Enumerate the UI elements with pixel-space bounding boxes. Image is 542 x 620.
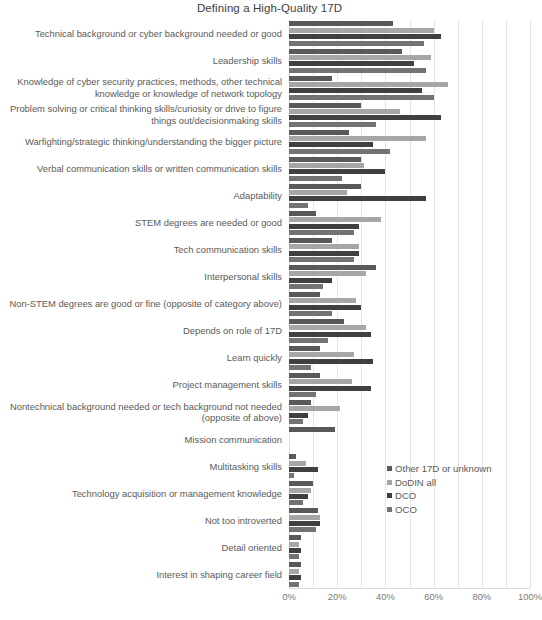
x-tick-label: 100% [518, 591, 542, 602]
y-axis-category-label: Tech communication skills [0, 236, 286, 263]
bar [289, 365, 311, 370]
y-axis-category-label: Technical background or cyber background… [0, 20, 286, 47]
bar [289, 28, 434, 33]
bar [289, 244, 359, 249]
bar [289, 305, 361, 310]
bar [289, 184, 361, 189]
bar [289, 554, 299, 559]
x-tick-label: 20% [328, 591, 347, 602]
bar [289, 251, 359, 256]
bar [289, 203, 308, 208]
legend-swatch-icon [387, 493, 392, 498]
bar-group [289, 101, 530, 128]
bar [289, 298, 356, 303]
bar [289, 548, 301, 553]
bar [289, 379, 352, 384]
y-axis-category-label: Learn quickly [0, 345, 286, 372]
bar [289, 21, 393, 26]
bar [289, 76, 332, 81]
bar [289, 82, 448, 87]
bar [289, 238, 332, 243]
chart-legend: Other 17D or unknownDoDIN allDCOOCO [387, 463, 492, 515]
legend-swatch-icon [387, 480, 392, 485]
bar [289, 332, 371, 337]
y-axis-category-label: Nontechnical background needed or tech b… [0, 399, 286, 426]
bar [289, 325, 366, 330]
bar [289, 419, 303, 424]
bar [289, 488, 311, 493]
y-axis-category-label: Verbal communication skills or written c… [0, 155, 286, 182]
bar [289, 68, 426, 73]
bar [289, 61, 414, 66]
y-axis-category-label: Leadership skills [0, 47, 286, 74]
bar [289, 196, 426, 201]
bar [289, 109, 400, 114]
bar [289, 122, 376, 127]
y-axis-category-label: Technology acquisition or management kno… [0, 480, 286, 507]
bar [289, 386, 371, 391]
legend-item[interactable]: Other 17D or unknown [387, 463, 492, 474]
bar [289, 569, 299, 574]
bar [289, 473, 294, 478]
legend-swatch-icon [387, 507, 392, 512]
bar [289, 406, 340, 411]
bar [289, 521, 320, 526]
y-axis-category-label: Knowledge of cyber security practices, m… [0, 74, 286, 101]
legend-swatch-icon [387, 466, 392, 471]
bar-group [289, 426, 530, 453]
bar [289, 55, 431, 60]
bar [289, 515, 320, 520]
bar-group [289, 263, 530, 290]
bar [289, 211, 316, 216]
bar-group [289, 128, 530, 155]
legend-item[interactable]: DoDIN all [387, 477, 492, 488]
bar [289, 157, 361, 162]
y-axis-category-label: Detail oriented [0, 534, 286, 561]
y-axis-category-label: Non-STEM degrees are good or fine (oppos… [0, 290, 286, 317]
bar [289, 265, 376, 270]
bar [289, 500, 303, 505]
bar [289, 319, 344, 324]
legend-label: Other 17D or unknown [395, 463, 492, 474]
bar-group [289, 209, 530, 236]
bar [289, 176, 342, 181]
legend-item[interactable]: OCO [387, 504, 492, 515]
bar-group [289, 372, 530, 399]
x-tick-label: 0% [282, 591, 296, 602]
bar [289, 562, 301, 567]
bar [289, 278, 332, 283]
bar [289, 271, 366, 276]
bar [289, 413, 308, 418]
legend-item[interactable]: DCO [387, 490, 492, 501]
bar-group [289, 20, 530, 47]
y-axis-category-label: Problem solving or critical thinking ski… [0, 101, 286, 128]
y-axis-category-label: Project management skills [0, 372, 286, 399]
x-tick-label: 80% [472, 591, 491, 602]
bar [289, 467, 318, 472]
y-axis-category-label: Mission communication [0, 426, 286, 453]
bar [289, 169, 385, 174]
x-tick-label: 40% [376, 591, 395, 602]
bar [289, 454, 296, 459]
bar [289, 163, 364, 168]
bar-group [289, 290, 530, 317]
gridline [530, 20, 531, 588]
legend-label: OCO [395, 504, 417, 515]
bar-group [289, 399, 530, 426]
y-axis-category-label: Multitasking skills [0, 453, 286, 480]
legend-label: DCO [395, 490, 416, 501]
bar [289, 338, 328, 343]
bar [289, 481, 313, 486]
bar [289, 284, 323, 289]
chart-title: Defining a High-Quality 17D [0, 2, 539, 14]
bar-group [289, 561, 530, 588]
bar [289, 257, 354, 262]
bar [289, 427, 335, 432]
bar [289, 49, 402, 54]
bar [289, 88, 422, 93]
bar-group [289, 155, 530, 182]
bar [289, 95, 434, 100]
bar [289, 527, 316, 532]
bar [289, 217, 381, 222]
